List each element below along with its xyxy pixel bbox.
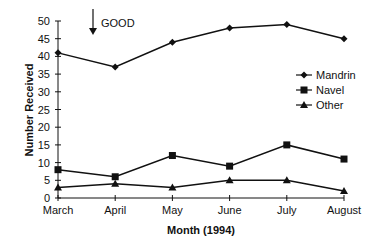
x-tick-label: March — [43, 204, 74, 216]
series-other — [54, 176, 348, 194]
diamond-marker-icon — [55, 49, 62, 56]
y-tick-label: 0 — [44, 192, 50, 204]
series-mandrin — [55, 21, 348, 70]
square-marker-icon — [226, 163, 233, 170]
y-tick-label: 20 — [38, 121, 50, 133]
line-chart: 05101520253035404550 MarchAprilMayJuneJu… — [0, 0, 377, 246]
y-tick-label: 30 — [38, 86, 50, 98]
x-tick-label: April — [104, 204, 126, 216]
diamond-marker-icon — [226, 25, 233, 32]
y-tick-label: 10 — [38, 157, 50, 169]
y-tick-label: 25 — [38, 104, 50, 116]
legend-label: Navel — [316, 84, 344, 96]
good-label: GOOD — [101, 17, 135, 29]
y-axis-title: Number Received — [23, 64, 35, 157]
x-tick-label: August — [327, 204, 361, 216]
square-marker-icon — [283, 141, 290, 148]
square-marker-icon — [112, 173, 119, 180]
y-tick-label: 45 — [38, 33, 50, 45]
y-axis: 05101520253035404550 — [38, 15, 61, 204]
square-legend-icon — [301, 87, 308, 94]
x-axis: MarchAprilMayJuneJulyAugust — [43, 195, 361, 216]
x-tick-label: June — [218, 204, 242, 216]
y-tick-label: 40 — [38, 50, 50, 62]
square-marker-icon — [341, 156, 348, 163]
x-axis-title: Month (1994) — [167, 224, 235, 236]
legend-item-other: Other — [296, 99, 344, 111]
legend-label: Other — [316, 99, 344, 111]
good-annotation: GOOD — [89, 9, 135, 35]
x-tick-label: July — [277, 204, 297, 216]
legend-label: Mandrin — [316, 69, 356, 81]
square-marker-icon — [169, 152, 176, 159]
y-tick-label: 35 — [38, 68, 50, 80]
diamond-legend-icon — [301, 72, 308, 79]
diamond-marker-icon — [112, 64, 119, 71]
arrowhead-icon — [89, 28, 97, 35]
x-tick-label: May — [162, 204, 183, 216]
y-tick-label: 15 — [38, 139, 50, 151]
diamond-marker-icon — [169, 39, 176, 46]
y-tick-label: 50 — [38, 15, 50, 27]
legend-item-mandrin: Mandrin — [296, 69, 356, 81]
legend: MandrinNavelOther — [296, 69, 356, 111]
diamond-marker-icon — [283, 21, 290, 28]
square-marker-icon — [55, 166, 62, 173]
y-tick-label: 5 — [44, 174, 50, 186]
series-navel — [55, 141, 348, 180]
diamond-marker-icon — [341, 35, 348, 42]
legend-item-navel: Navel — [296, 84, 344, 96]
